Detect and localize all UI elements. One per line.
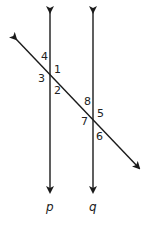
parallel-lines-diagram: 41328576pq xyxy=(0,0,151,228)
line-label-q: q xyxy=(89,200,97,214)
angle-label-5: 5 xyxy=(97,107,104,120)
angle-label-2: 2 xyxy=(54,84,61,97)
angle-label-1: 1 xyxy=(54,63,61,76)
line-label-p: p xyxy=(45,200,54,214)
angle-label-7: 7 xyxy=(81,115,88,128)
angle-label-6: 6 xyxy=(96,130,103,143)
angle-label-3: 3 xyxy=(38,72,45,85)
angle-label-8: 8 xyxy=(84,95,91,108)
transversal-line xyxy=(16,39,139,168)
angle-label-4: 4 xyxy=(41,50,48,63)
